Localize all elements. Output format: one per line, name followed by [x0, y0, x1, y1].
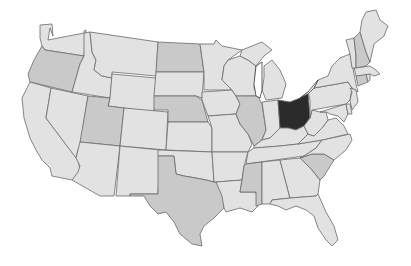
- us-state-map: Washington Oregon California Idaho Nevad…: [0, 0, 411, 266]
- state-wyoming[interactable]: Wyoming: [108, 74, 156, 112]
- us-map-svg: Washington Oregon California Idaho Nevad…: [0, 0, 411, 266]
- state-arizona[interactable]: Arizona: [72, 142, 120, 196]
- state-north-dakota[interactable]: North Dakota: [156, 42, 204, 72]
- state-kansas[interactable]: Kansas: [166, 122, 212, 152]
- state-florida[interactable]: Florida: [270, 194, 338, 246]
- state-new-mexico[interactable]: New Mexico: [116, 146, 160, 196]
- state-colorado[interactable]: Colorado: [120, 108, 168, 150]
- state-montana[interactable]: Montana: [90, 32, 158, 78]
- state-south-dakota[interactable]: South Dakota: [154, 72, 204, 98]
